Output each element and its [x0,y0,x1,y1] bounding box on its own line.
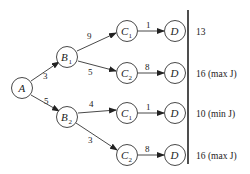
node-c2-upper: C 2 [117,63,138,84]
svg-text:2: 2 [129,156,133,164]
svg-text:D: D [170,67,179,79]
edge-label-c2b-dd: 8 [145,144,150,154]
node-d-4: D [165,145,186,166]
edge-label-b2-c2: 3 [88,135,93,145]
results: 13 16 (max J) 10 (min J) 16 (max J) [196,27,237,162]
node-a: A [12,78,33,99]
edge-labels: 3 5 9 5 4 3 1 8 1 8 [43,20,151,154]
svg-text:D: D [170,25,179,37]
edge-b2-c1 [78,110,116,113]
edge-label-b2-c1: 4 [89,99,94,109]
edge-label-c2a-db: 8 [145,62,150,72]
edge-label-a-b2: 5 [44,96,49,106]
edge-b2-c2 [76,123,117,150]
edges [31,31,164,155]
edge-label-c1a-da: 1 [146,20,151,30]
svg-text:1: 1 [69,58,73,66]
edge-label-c1b-dc: 1 [146,102,151,112]
result-2: 16 (max J) [196,69,237,80]
node-c1-lower: C 1 [117,103,138,124]
node-d-1: D [165,21,186,42]
node-b2: B 2 [57,107,78,128]
svg-text:B: B [61,51,68,63]
edge-b1-c2 [78,61,116,71]
svg-text:1: 1 [129,32,133,40]
svg-text:1: 1 [129,114,133,122]
node-b1: B 1 [57,47,78,68]
svg-text:A: A [18,82,26,94]
node-d-3: D [165,103,186,124]
edge-label-b1-c1: 9 [87,31,92,41]
node-c1-upper: C 1 [117,21,138,42]
edge-b1-c1 [77,33,116,51]
result-4: 16 (max J) [196,151,237,162]
result-1: 13 [196,27,206,37]
node-c2-lower: C 2 [117,145,138,166]
svg-text:B: B [61,111,68,123]
svg-text:2: 2 [129,74,133,82]
svg-text:D: D [170,107,179,119]
edge-label-a-b1: 3 [43,71,48,81]
edge-label-b1-c2: 5 [88,67,93,77]
svg-text:D: D [170,149,179,161]
svg-text:2: 2 [69,118,73,126]
decision-tree-diagram: 3 5 9 5 4 3 1 8 1 8 A B 1 B 2 C 1 C 2 C … [0,0,250,174]
node-d-2: D [165,63,186,84]
result-3: 10 (min J) [196,109,235,120]
